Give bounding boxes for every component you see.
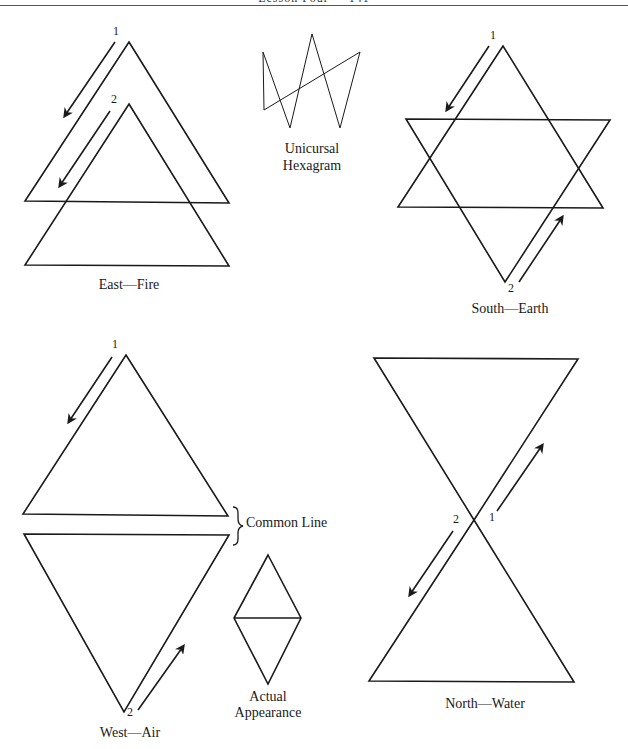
west-start-1: 1 <box>112 337 118 352</box>
north-start-2: 2 <box>453 512 459 527</box>
south-start-2: 2 <box>508 281 514 296</box>
west-air-diagram <box>23 355 229 712</box>
north-water-label: North—Water <box>425 695 545 712</box>
south-earth-label: South—Earth <box>450 300 570 317</box>
hexagram-label-line1: Unicursal <box>262 140 362 157</box>
pentagram-ritual-diagrams <box>0 0 628 749</box>
east-start-2: 2 <box>111 92 117 107</box>
actual-appearance-diagram <box>234 555 301 684</box>
unicursal-hexagram-icon <box>263 34 360 128</box>
north-start-1: 1 <box>489 510 495 525</box>
common-line-brace-icon <box>233 507 243 545</box>
actual-appearance-line1: Actual <box>218 688 318 705</box>
east-fire-label: East—Fire <box>73 276 185 293</box>
south-start-1: 1 <box>490 28 496 43</box>
hexagram-label-line2: Hexagram <box>262 157 362 174</box>
east-start-1: 1 <box>113 24 119 39</box>
east-fire-diagram <box>25 42 229 266</box>
actual-appearance-line2: Appearance <box>218 704 318 721</box>
south-earth-diagram <box>398 46 610 282</box>
common-line-label: Common Line <box>246 514 327 531</box>
west-air-label: West—Air <box>80 724 180 741</box>
west-start-2: 2 <box>127 705 133 720</box>
north-water-diagram <box>369 358 578 682</box>
